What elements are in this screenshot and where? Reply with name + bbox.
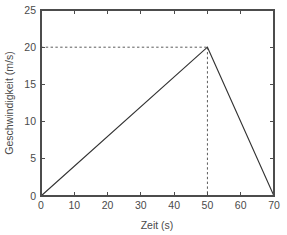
x-tick-label: 70 xyxy=(268,199,280,211)
x-axis-title: Zeit (s) xyxy=(141,219,174,231)
x-tick-label: 0 xyxy=(38,199,44,211)
x-tick-label: 60 xyxy=(235,199,247,211)
velocity-time-chart: 010203040506070 0510152025 Zeit (s) Gesc… xyxy=(0,0,287,235)
y-tick-label: 5 xyxy=(30,152,36,164)
x-tick-label: 20 xyxy=(102,199,114,211)
y-tick-label: 15 xyxy=(24,78,36,90)
plot-background xyxy=(41,10,274,196)
x-axis-tick-labels: 010203040506070 xyxy=(38,199,280,211)
y-tick-label: 25 xyxy=(24,4,36,16)
x-tick-label: 40 xyxy=(168,199,180,211)
x-tick-label: 50 xyxy=(202,199,214,211)
y-axis-tick-labels: 0510152025 xyxy=(24,4,36,202)
chart-figure: 010203040506070 0510152025 Zeit (s) Gesc… xyxy=(0,0,287,235)
y-tick-label: 10 xyxy=(24,115,36,127)
x-tick-label: 30 xyxy=(135,199,147,211)
y-axis-title: Geschwindigkeit (m/s) xyxy=(3,51,15,154)
x-tick-label: 10 xyxy=(68,199,80,211)
y-tick-label: 0 xyxy=(30,190,36,202)
y-tick-label: 20 xyxy=(24,41,36,53)
